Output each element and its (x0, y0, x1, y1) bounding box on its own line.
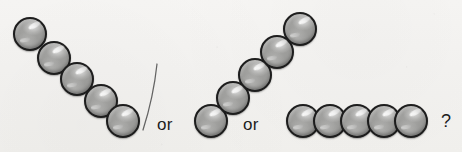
circle-token (394, 104, 428, 138)
circle-token (283, 12, 317, 46)
or-2: or (243, 116, 259, 133)
circle-token (106, 104, 140, 138)
or-1: or (157, 116, 173, 133)
question-mark: ? (441, 112, 451, 130)
puzzle-canvas: oror? (0, 0, 462, 152)
